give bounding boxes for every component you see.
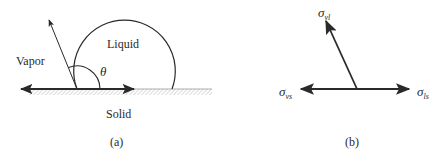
solid-label: Solid	[106, 107, 131, 121]
theta-label: θ	[100, 64, 107, 79]
panel-a: Liquid Vapor θ Solid (a)	[16, 20, 212, 149]
panel-b: σvl σvs σls (b)	[279, 5, 429, 149]
contact-angle-diagram: Liquid Vapor θ Solid (a) σvl σvs σls (b)	[0, 0, 441, 156]
sigma-vl-arrow	[326, 21, 357, 89]
sigma-vs-label: σvs	[279, 84, 292, 101]
liquid-droplet-outline	[74, 20, 176, 89]
vapor-liquid-tension-arrow	[49, 20, 77, 89]
vapor-label: Vapor	[16, 54, 45, 68]
liquid-label: Liquid	[107, 37, 139, 51]
panel-a-caption: (a)	[110, 135, 123, 149]
sigma-vl-label: σvl	[318, 5, 331, 22]
sigma-ls-label: σls	[417, 84, 429, 101]
panel-b-caption: (b)	[345, 135, 359, 149]
